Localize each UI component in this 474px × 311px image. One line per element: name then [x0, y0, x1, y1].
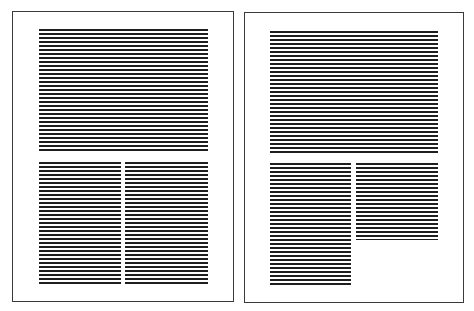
full-width-text-block [39, 29, 208, 152]
left-column-text-block [270, 163, 351, 286]
full-width-text-block [270, 31, 438, 153]
right-column-text-block [125, 162, 208, 284]
left-column-text-block [39, 162, 121, 284]
right-column-text-block [356, 163, 438, 240]
